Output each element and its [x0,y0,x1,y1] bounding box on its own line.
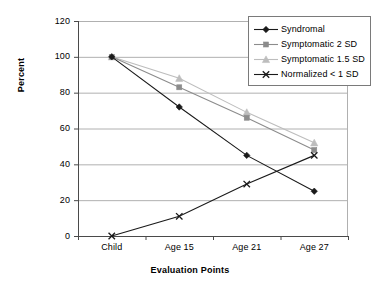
legend: SyndromalSymptomatic 2 SDSymptomatic 1.5… [248,16,371,86]
data-point-marker [177,85,182,90]
legend-key-diamond-icon [253,22,279,35]
legend-item: Symptomatic 1.5 SD [253,51,365,66]
legend-item-label: Syndromal [279,24,325,34]
legend-key-cross-icon [253,67,279,80]
data-point-marker [176,213,182,219]
data-point-marker [244,115,249,120]
legend-key-square-icon [253,37,279,50]
data-point-marker [311,152,317,158]
data-point-marker [243,109,250,116]
legend-item: Syndromal [253,21,365,36]
legend-key-triangle-icon [253,52,279,65]
legend-item-label: Symptomatic 1.5 SD [279,54,365,64]
data-point-marker [311,139,318,146]
data-point-marker [263,26,269,32]
series-line [112,155,315,236]
legend-item: Normalized < 1 SD [253,66,365,81]
legend-item: Symptomatic 2 SD [253,36,365,51]
data-point-marker [312,148,317,153]
data-point-marker [264,42,269,47]
legend-item-label: Normalized < 1 SD [279,69,358,79]
line-chart: Percent Evaluation Points 02040608010012… [0,0,380,292]
data-point-marker [311,188,317,194]
legend-item-label: Symptomatic 2 SD [279,39,357,49]
data-point-marker [244,181,250,187]
